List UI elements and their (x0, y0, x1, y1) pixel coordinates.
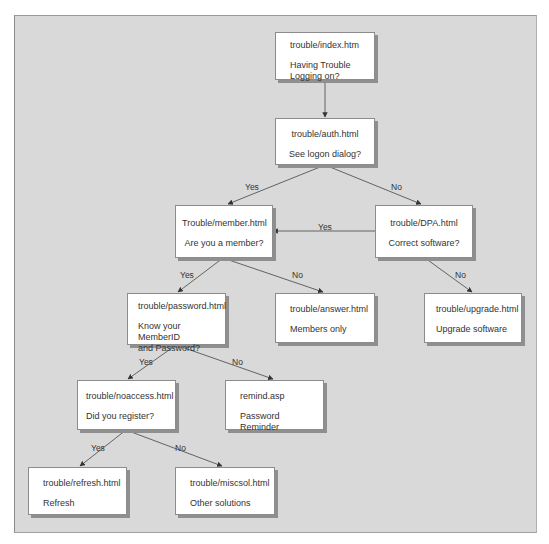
edge-label-member-answer: No (292, 270, 303, 280)
node-refresh-file: trouble/refresh.html (43, 478, 116, 489)
node-auth: trouble/auth.html See logon dialog? (275, 118, 375, 165)
node-password-desc: Know your MemberID and Password? (138, 321, 215, 354)
node-dpa-desc: Correct software? (382, 238, 466, 249)
node-member-file: Trouble/member.html (182, 218, 266, 229)
node-answer: trouble/answer.html Members only (275, 293, 375, 343)
node-remind-desc: Password Reminder (240, 411, 313, 433)
node-miscsol-desc: Other solutions (190, 498, 264, 509)
node-refresh-desc: Refresh (43, 498, 116, 509)
node-noaccess-file: trouble/noaccess.html (86, 391, 165, 402)
node-miscsol: trouble/miscsol.html Other solutions (175, 467, 275, 515)
node-auth-file: trouble/auth.html (282, 129, 368, 140)
edge-label-auth-member: Yes (245, 182, 259, 192)
edge-label-password-remind: No (232, 357, 243, 367)
edge-label-auth-dpa: No (391, 182, 402, 192)
edge-label-noaccess-refresh: Yes (91, 443, 105, 453)
node-member: Trouble/member.html Are you a member? (175, 205, 273, 258)
node-noaccess: trouble/noaccess.html Did you register? (77, 380, 176, 430)
edge-label-dpa-member: Yes (318, 222, 332, 232)
node-refresh: trouble/refresh.html Refresh (28, 467, 127, 515)
node-upgrade-file: trouble/upgrade.html (436, 304, 511, 315)
edge-label-password-noaccess: Yes (139, 357, 153, 367)
node-auth-desc: See logon dialog? (282, 149, 368, 160)
node-index-file: trouble/index.htm (290, 40, 364, 51)
node-password: trouble/password.html Know your MemberID… (127, 293, 226, 345)
edge-label-noaccess-miscsol: No (175, 443, 186, 453)
node-noaccess-desc: Did you register? (86, 411, 165, 422)
edge-label-member-password: Yes (180, 270, 194, 280)
node-upgrade: trouble/upgrade.html Upgrade software (424, 293, 522, 343)
node-dpa: trouble/DPA.html Correct software? (375, 205, 473, 258)
node-remind-file: remind.asp (240, 391, 313, 402)
node-remind: remind.asp Password Reminder (225, 380, 324, 430)
node-password-file: trouble/password.html (138, 301, 215, 312)
edge-label-dpa-upgrade: No (455, 270, 466, 280)
node-answer-desc: Members only (290, 324, 364, 335)
node-answer-file: trouble/answer.html (290, 304, 364, 315)
node-member-desc: Are you a member? (182, 238, 266, 249)
node-index: trouble/index.htm Having Trouble Logging… (275, 32, 375, 80)
node-upgrade-desc: Upgrade software (436, 324, 511, 335)
node-index-desc: Having Trouble Logging on? (290, 60, 364, 82)
node-dpa-file: trouble/DPA.html (382, 218, 466, 229)
node-miscsol-file: trouble/miscsol.html (190, 478, 264, 489)
